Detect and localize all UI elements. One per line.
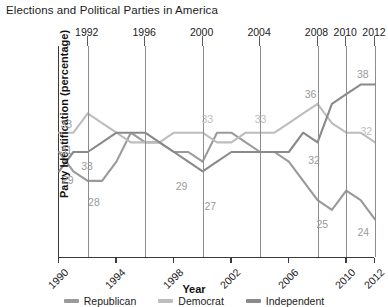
data-label-33: 33: [255, 113, 267, 125]
top-tick-mark-2000: [202, 36, 203, 46]
data-label-29: 29: [176, 180, 188, 192]
data-label-38: 38: [357, 68, 369, 80]
bottom-tick-mark-2006: [288, 258, 289, 263]
line-independent: [59, 85, 375, 172]
data-label-33: 33: [60, 118, 72, 130]
line-democrat: [59, 104, 375, 143]
legend-item-republican[interactable]: Republican: [64, 295, 137, 307]
chart-root: Elections and Political Parties in Ameri…: [0, 0, 388, 307]
bottom-tick-mark-2012: [374, 258, 375, 263]
data-label-33: 33: [81, 160, 93, 172]
legend-swatch-democrat: [158, 299, 173, 303]
data-label-32: 32: [360, 125, 372, 137]
top-tick-mark-1992: [87, 36, 88, 46]
data-label-36: 36: [305, 88, 317, 100]
data-label-33: 33: [202, 113, 214, 125]
data-label-31: 31: [60, 144, 72, 156]
gridline-2012: [375, 46, 376, 257]
top-tick-mark-2010: [345, 36, 346, 46]
gridline-2010: [346, 46, 347, 257]
top-tick-mark-2004: [259, 36, 260, 46]
bottom-tick-mark-1994: [115, 258, 116, 263]
data-label-27: 27: [204, 200, 216, 212]
legend-item-democrat[interactable]: Democrat: [158, 295, 224, 307]
legend-swatch-republican: [64, 299, 79, 303]
chart-title: Elections and Political Parties in Ameri…: [6, 4, 218, 16]
legend-swatch-independent: [246, 299, 261, 303]
gridline-2004: [260, 46, 261, 257]
top-tick-mark-2008: [317, 36, 318, 46]
legend-label-republican: Republican: [84, 295, 137, 307]
gridline-1992: [88, 46, 89, 257]
data-label-25: 25: [316, 218, 328, 230]
top-tick-mark-1996: [144, 36, 145, 46]
bottom-tick-mark-2010: [345, 258, 346, 263]
data-label-29: 29: [62, 174, 74, 186]
top-tick-mark-2012: [374, 36, 375, 46]
legend-item-independent[interactable]: Independent: [246, 295, 324, 307]
bottom-tick-mark-1990: [58, 258, 59, 263]
bottom-tick-mark-1998: [173, 258, 174, 263]
gridline-2000: [203, 46, 204, 257]
gridline-1996: [145, 46, 146, 257]
data-label-24: 24: [358, 226, 370, 238]
chart-legend: RepublicanDemocratIndependent: [0, 295, 388, 307]
line-republican: [59, 133, 375, 220]
data-label-32: 32: [308, 154, 320, 166]
bottom-tick-mark-2002: [230, 258, 231, 263]
data-label-28: 28: [88, 196, 100, 208]
